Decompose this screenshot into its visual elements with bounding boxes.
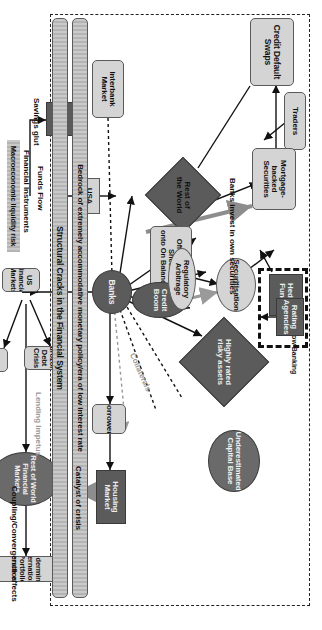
label-lending-impetus: Lending Impetus (34, 392, 42, 456)
node-regulatory-arbitrage[interactable]: Regulatory Arbitrage (168, 248, 196, 310)
label-coupling-convergence-effects: Coupling/Convergence effects (10, 486, 18, 602)
node-borrowers[interactable]: Borrowers (92, 404, 126, 434)
node-credit-default-swaps[interactable]: Credit Default Swaps (250, 18, 294, 86)
node-label: Rest of the World (157, 169, 209, 221)
node-underestimated-capital-base[interactable]: Underestimated Capital Base (208, 430, 260, 492)
label-macroeconomic-liquidity-risk: Macroeconomic liquidity risk (7, 140, 20, 252)
node-traders[interactable]: Traders (284, 92, 306, 150)
bar-structural-cracks: Structural Cracks in the Financial Syste… (52, 18, 68, 598)
label-banks-invest-in-own-securities: Banks invest in own securities (228, 178, 236, 294)
node-us-financial-markets[interactable]: US Financial Markets (2, 268, 40, 292)
label-financial-instruments: Financial Instruments (22, 150, 30, 233)
figure-root: Traders Hedge Funds Shadow Banking Ratin… (0, 0, 322, 630)
node-label: Highly rated risky assets (193, 331, 255, 393)
node-international-trade[interactable]: International Trade (0, 348, 8, 372)
node-banks[interactable]: Banks (92, 270, 132, 314)
label-funds-flow: Funds Flow (36, 166, 44, 210)
node-rating-agencies[interactable]: Rating Agencies (276, 298, 304, 336)
label-savings-glut: Savings glut (32, 98, 40, 146)
node-interbank-market[interactable]: Interbank Market (92, 60, 124, 118)
node-housing-market[interactable]: Housing Market (96, 470, 126, 524)
label-catalyst-of-crisis: Catalyst of crisis (74, 466, 82, 530)
node-mortgage-backed-securities[interactable]: Mortgage-backed Securities (252, 148, 296, 210)
diagram-canvas: Traders Hedge Funds Shadow Banking Ratin… (0, 0, 322, 630)
